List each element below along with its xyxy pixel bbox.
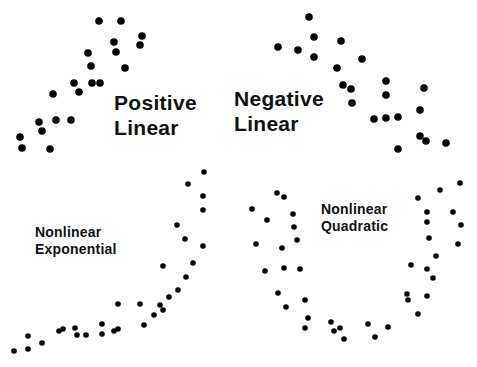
label-positive-linear: Positive Linear (114, 90, 197, 140)
data-dot (382, 77, 390, 85)
label-nonlinear-exponential: Nonlinear Exponential (35, 224, 117, 258)
label-negative-linear: Negative Linear (234, 86, 324, 136)
data-dot (382, 91, 390, 99)
data-dot (117, 17, 125, 25)
data-dot (110, 38, 118, 46)
data-dot (337, 37, 345, 45)
data-dot (174, 222, 180, 228)
data-dot (72, 325, 78, 331)
data-dot (310, 33, 318, 41)
data-dot (160, 307, 166, 313)
data-dot (347, 85, 355, 93)
data-dot (404, 291, 410, 297)
data-dot (99, 321, 105, 327)
data-dot (408, 262, 414, 268)
data-dot (83, 332, 89, 338)
data-dot (138, 32, 146, 40)
data-dot (405, 297, 411, 303)
data-dot (111, 328, 117, 334)
data-dot (249, 206, 255, 212)
data-dot (157, 302, 163, 308)
data-dot (253, 241, 259, 247)
data-dot (294, 46, 302, 54)
data-dot (87, 62, 95, 70)
data-dot (426, 235, 432, 241)
data-dot (422, 137, 430, 145)
data-dot (200, 193, 206, 199)
data-dot (136, 41, 144, 49)
data-dot (290, 211, 296, 217)
data-dot (115, 301, 121, 307)
data-dot (394, 113, 402, 121)
dot-group-nonlinear-exponential (11, 169, 207, 354)
data-dot (281, 265, 287, 271)
data-dot (365, 321, 371, 327)
data-dot (305, 315, 311, 321)
data-dot (70, 79, 78, 87)
data-dot (160, 263, 166, 269)
data-dot (262, 268, 268, 274)
data-dot (183, 274, 189, 280)
data-dot (264, 217, 270, 223)
data-dot (46, 145, 54, 153)
data-dot (200, 243, 206, 249)
data-dot (424, 266, 430, 272)
label-line: Positive (114, 90, 197, 115)
data-dot (430, 275, 436, 281)
data-dot (99, 331, 105, 337)
data-dot (372, 334, 378, 340)
data-dot (39, 340, 45, 346)
data-dot (370, 115, 378, 123)
label-line: Exponential (35, 241, 117, 258)
data-dot (35, 118, 43, 126)
data-dot (385, 324, 391, 330)
data-dot (433, 253, 439, 259)
data-dot (112, 48, 120, 56)
data-dot (16, 133, 24, 141)
data-dot (337, 325, 343, 331)
scatter-dots-layer (0, 0, 477, 367)
data-dot (84, 49, 92, 57)
data-dot (416, 132, 424, 140)
data-dot (38, 127, 46, 135)
data-dot (394, 145, 402, 153)
data-dot (88, 79, 96, 87)
data-dot (458, 222, 464, 228)
label-line: Nonlinear (35, 224, 117, 241)
label-line: Linear (114, 115, 197, 140)
data-dot (437, 187, 443, 193)
data-dot (358, 55, 366, 63)
label-line: Linear (234, 111, 324, 136)
data-dot (141, 322, 147, 328)
data-dot (328, 319, 334, 325)
data-dot (302, 297, 308, 303)
data-dot (382, 114, 390, 122)
data-dot (75, 88, 83, 96)
data-dot (201, 169, 207, 175)
data-dot (18, 144, 26, 152)
data-dot (341, 336, 347, 342)
data-dot (182, 236, 188, 242)
data-dot (455, 241, 461, 247)
data-dot (275, 290, 281, 296)
data-dot (331, 328, 337, 334)
data-dot (25, 333, 31, 339)
data-dot (457, 180, 463, 186)
data-dot (96, 79, 104, 87)
data-dot (121, 64, 129, 72)
data-dot (442, 139, 450, 147)
data-dot (339, 81, 347, 89)
label-line: Negative (234, 86, 324, 111)
label-line: Nonlinear (321, 201, 388, 218)
data-dot (283, 304, 289, 310)
data-dot (310, 53, 318, 61)
label-nonlinear-quadratic: Nonlinear Quadratic (321, 201, 388, 235)
scatter-patterns-diagram: Positive Linear Negative Linear Nonlinea… (0, 0, 477, 367)
data-dot (49, 90, 57, 98)
data-dot (274, 190, 280, 196)
data-dot (420, 84, 428, 92)
data-dot (415, 311, 421, 317)
data-dot (137, 301, 143, 307)
data-dot (333, 64, 341, 72)
data-dot (424, 209, 430, 215)
